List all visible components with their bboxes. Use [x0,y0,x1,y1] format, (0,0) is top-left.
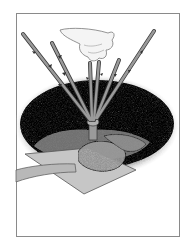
hand [60,28,114,61]
rose-planting-illustration [0,0,188,243]
